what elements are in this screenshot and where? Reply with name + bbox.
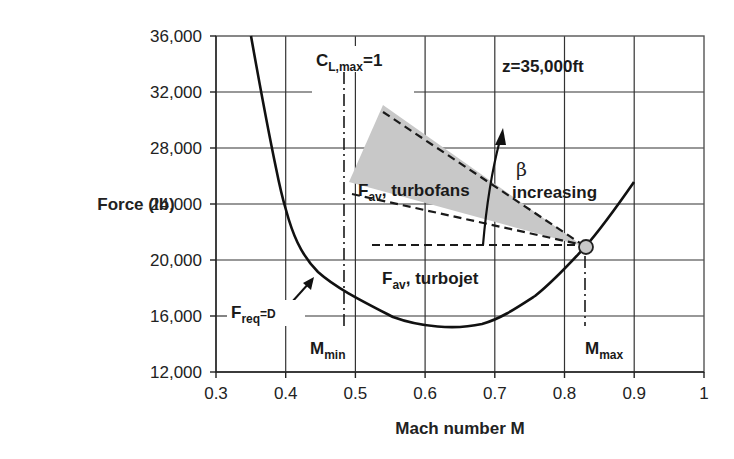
y-tick: 32,000 [150, 83, 202, 102]
beta-symbol: β [516, 158, 527, 180]
y-tick: 16,000 [150, 307, 202, 326]
x-tick: 0.4 [274, 384, 298, 403]
x-tick: 0.3 [204, 384, 228, 403]
x-tick: 0.8 [553, 384, 577, 403]
x-tick-labels: 0.3 0.4 0.5 0.6 0.7 0.8 0.9 1 [204, 384, 709, 403]
y-tick: 36,000 [150, 27, 202, 46]
x-tick: 1 [699, 384, 708, 403]
y-tick: 12,000 [150, 363, 202, 382]
turbojet-label: Fav, turbojet [382, 269, 479, 292]
x-axis-title: Mach number M [395, 419, 524, 438]
x-axis [216, 372, 704, 378]
altitude-label: z=35,000ft [502, 57, 584, 76]
y-axis [210, 36, 216, 372]
y-tick: 20,000 [150, 251, 202, 270]
x-tick: 0.6 [413, 384, 437, 403]
mmin-label: Mmin [310, 339, 346, 362]
chart: 36,000 32,000 28,000 24,000 20,000 16,00… [0, 0, 734, 459]
mmax-label: Mmax [585, 339, 624, 362]
x-tick: 0.5 [344, 384, 368, 403]
turbofan-range-region [349, 105, 583, 246]
y-tick: 28,000 [150, 139, 202, 158]
x-tick: 0.7 [483, 384, 507, 403]
increasing-label: increasing [512, 183, 597, 202]
freq-arrow [292, 277, 314, 302]
x-tick: 0.9 [622, 384, 646, 403]
y-axis-title: Force (lb) [97, 195, 174, 214]
max-mach-point-marker [579, 240, 593, 254]
